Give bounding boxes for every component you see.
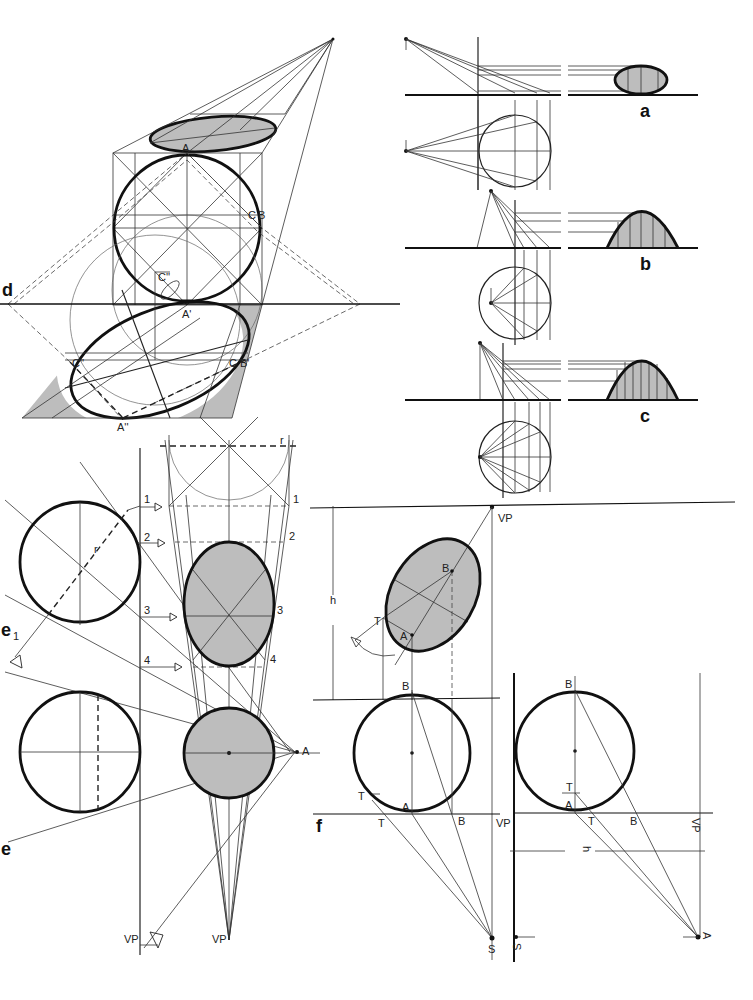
f-right-label-VP: VP — [690, 818, 702, 833]
h-label-top: h — [330, 594, 336, 606]
vp-label-left: VP — [124, 933, 139, 945]
vp-label-top: VP — [498, 512, 513, 524]
f-left-label-B-top: B — [402, 680, 409, 692]
technical-drawing-plate: d A C B C'' A' C'' C B' A'' — [0, 0, 753, 1000]
panel-f: VP h B A T B T A T B VP S B T A T B VP h… — [310, 502, 735, 962]
panel-label-d: d — [2, 280, 13, 300]
panel-e: r r 1 2 3 4 1 2 3 4 A VP VP e 1 e — [1, 417, 320, 955]
f-right-label-B-lower: B — [630, 815, 637, 827]
panel-b: b — [405, 189, 698, 345]
f-right-label-S: S — [511, 943, 523, 950]
arrow-vp-icon — [150, 932, 163, 948]
point-label-A-e: A — [302, 745, 310, 757]
panel-a: a — [404, 37, 698, 190]
number-2-right: 2 — [289, 530, 295, 542]
point-label-B-prime: B' — [240, 357, 249, 369]
panel-c: c — [405, 341, 698, 498]
f-left-label-A: A — [402, 801, 410, 813]
panel-label-f: f — [316, 816, 323, 836]
f-left-label-S: S — [488, 943, 495, 955]
f-left-label-B-lower: B — [458, 815, 465, 827]
arrow-e1-icon — [10, 655, 22, 668]
point-label-B: B — [258, 209, 265, 221]
number-4-left: 4 — [144, 654, 150, 666]
point-label-C-double-top: C'' — [158, 271, 170, 283]
radius-label-circle: r — [94, 543, 98, 555]
panel-label-b: b — [640, 254, 651, 274]
number-3-left: 3 — [144, 604, 150, 616]
arrow-3-icon — [170, 613, 177, 621]
vp-label-center: VP — [212, 933, 227, 945]
f-right-label-B-top: B — [565, 678, 572, 690]
f-left-label-T-lower: T — [378, 817, 385, 829]
panel-label-e1: e — [1, 620, 11, 640]
number-4-right: 4 — [270, 653, 276, 665]
f-right-label-T-upper: T — [566, 781, 573, 793]
arrow-4-icon — [175, 663, 182, 671]
point-label-A-tilted: A — [400, 630, 408, 642]
f-left-label-T-upper: T — [358, 790, 365, 802]
point-label-B-tilted: B — [442, 562, 449, 574]
arrow-1-icon — [155, 503, 162, 511]
f-right-label-h: h — [581, 846, 593, 852]
number-2-left: 2 — [144, 531, 150, 543]
panel-label-e1-subscript: 1 — [13, 630, 19, 642]
f-right-label-T-lower: T — [588, 815, 595, 827]
number-1-left: 1 — [144, 493, 150, 505]
f-right-label-A-bottom: A — [701, 932, 713, 940]
f-right-label-A: A — [565, 799, 573, 811]
radius-label-top: r — [280, 434, 284, 446]
point-label-C: C — [248, 209, 256, 221]
arrow-2-icon — [158, 539, 165, 547]
point-label-A: A — [182, 142, 190, 154]
f-left-label-VP: VP — [496, 817, 511, 829]
panel-label-e: e — [1, 839, 11, 859]
point-label-C-double-left: C'' — [72, 357, 84, 369]
point-label-A-prime: A' — [182, 308, 191, 320]
point-label-A-double: A'' — [117, 421, 129, 433]
number-3-right: 3 — [277, 604, 283, 616]
panel-label-c: c — [640, 406, 650, 426]
point-label-C-right: C — [229, 357, 237, 369]
panel-label-a: a — [640, 101, 651, 121]
number-1-right: 1 — [293, 493, 299, 505]
panel-d: d A C B C'' A' C'' C B' A'' — [0, 38, 400, 453]
point-label-T-tilted: T — [374, 615, 381, 627]
